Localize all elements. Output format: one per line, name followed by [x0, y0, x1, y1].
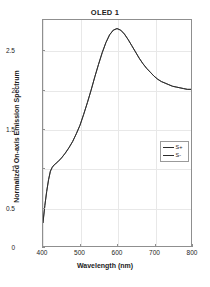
y-tick-label: 0	[0, 244, 15, 251]
x-tick-mark	[80, 244, 81, 247]
x-tick-label: 400	[29, 249, 55, 256]
x-tick-label: 500	[67, 249, 93, 256]
y-tick-mark	[42, 247, 45, 248]
y-tick-mark	[42, 129, 45, 130]
series-line	[43, 29, 191, 223]
legend-label: S+	[176, 145, 183, 151]
x-tick-mark	[117, 244, 118, 247]
y-tick-mark	[42, 168, 45, 169]
x-tick-mark	[155, 244, 156, 247]
y-tick-mark	[42, 208, 45, 209]
x-tick-mark	[42, 244, 43, 247]
data-curves	[43, 20, 191, 246]
y-tick-mark	[42, 90, 45, 91]
y-axis-label: Normalized On-axis Emission Spectrum	[13, 47, 20, 227]
x-tick-mark	[192, 244, 193, 247]
chart-figure: OLED 1 00.511.522.5 400500600700800 Wave…	[0, 0, 210, 287]
y-tick-mark	[42, 50, 45, 51]
x-tick-label: 800	[179, 249, 205, 256]
legend-label: S-	[176, 153, 182, 159]
legend-item[interactable]: S+	[163, 144, 186, 152]
series-line	[43, 29, 191, 223]
legend-line-swatch	[163, 155, 174, 156]
x-tick-label: 700	[142, 249, 168, 256]
plot-area	[42, 19, 192, 247]
x-tick-label: 600	[104, 249, 130, 256]
x-axis-label: Wavelength (nm)	[0, 262, 210, 269]
legend: S+S-	[160, 141, 189, 162]
legend-item[interactable]: S-	[163, 152, 186, 160]
chart-title: OLED 1	[0, 8, 210, 17]
legend-line-swatch	[163, 147, 174, 148]
